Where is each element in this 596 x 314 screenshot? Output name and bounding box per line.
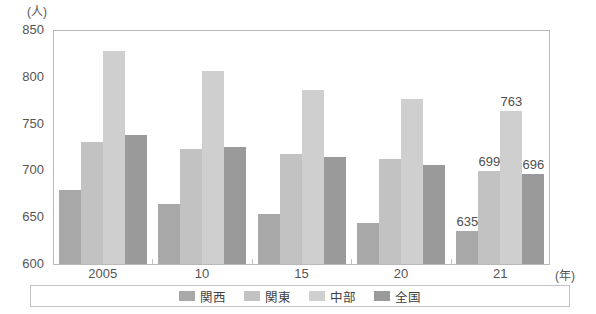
bar-group	[59, 30, 147, 264]
bar-value-label: 635	[447, 214, 487, 229]
x-axis: 200510152021(年)	[0, 266, 596, 284]
bar-value-label: 699	[469, 154, 509, 169]
y-axis-tick-label: 700	[0, 163, 44, 176]
chart-legend: 関西関東中部全国	[30, 285, 570, 307]
bar-関西-15[interactable]	[258, 214, 280, 264]
legend-swatch-icon	[179, 291, 195, 301]
bar-中部-10[interactable]	[202, 71, 224, 264]
bar-関東-2005[interactable]	[81, 142, 103, 264]
legend-swatch-icon	[244, 291, 260, 301]
bar-group	[357, 30, 445, 264]
bar-中部-2005[interactable]	[103, 51, 125, 264]
x-axis-tick-label: 2005	[73, 266, 133, 281]
bar-value-label: 763	[491, 94, 531, 109]
chart-container: (人) 600650700750800850 200510152021(年) 関…	[0, 0, 596, 314]
bar-全国-10[interactable]	[224, 147, 246, 264]
x-axis-tick-label: 20	[371, 266, 431, 281]
legend-label: 中部	[330, 287, 356, 306]
bar-関西-20[interactable]	[357, 223, 379, 264]
legend-item-関西[interactable]: 関西	[179, 287, 226, 306]
bar-関西-21[interactable]	[456, 231, 478, 264]
x-axis-tick-label: 10	[172, 266, 232, 281]
bar-全国-2005[interactable]	[125, 135, 147, 264]
y-axis-tick-label: 850	[0, 23, 44, 36]
legend-label: 関東	[265, 287, 291, 306]
bar-全国-15[interactable]	[324, 157, 346, 264]
bar-中部-15[interactable]	[302, 90, 324, 264]
bar-関東-20[interactable]	[379, 159, 401, 264]
x-axis-tick-label: 21	[470, 266, 530, 281]
legend-item-中部[interactable]: 中部	[309, 287, 356, 306]
x-axis-tick-mark	[152, 259, 153, 265]
x-axis-tick-mark	[451, 259, 452, 265]
legend-label: 全国	[395, 287, 421, 306]
legend-item-関東[interactable]: 関東	[244, 287, 291, 306]
bar-group	[158, 30, 246, 264]
y-axis-tick-label: 650	[0, 210, 44, 223]
bar-group	[258, 30, 346, 264]
bar-中部-20[interactable]	[401, 99, 423, 264]
legend-item-全国[interactable]: 全国	[374, 287, 421, 306]
y-axis-tick-label: 800	[0, 70, 44, 83]
bar-中部-21[interactable]	[500, 111, 522, 264]
x-axis-tick-label: 15	[272, 266, 332, 281]
y-axis-tick-label: 750	[0, 117, 44, 130]
bar-関西-2005[interactable]	[59, 190, 81, 264]
bar-value-label: 696	[513, 157, 553, 172]
bar-関東-10[interactable]	[180, 149, 202, 264]
legend-swatch-icon	[309, 291, 325, 301]
legend-swatch-icon	[374, 291, 390, 301]
bar-関東-15[interactable]	[280, 154, 302, 264]
x-axis-tick-mark	[252, 259, 253, 265]
bar-全国-20[interactable]	[423, 165, 445, 264]
bar-関西-10[interactable]	[158, 204, 180, 264]
x-axis-unit-label: (年)	[555, 266, 575, 283]
bar-全国-21[interactable]	[522, 174, 544, 264]
y-axis: 600650700750800850	[0, 0, 53, 265]
legend-label: 関西	[200, 287, 226, 306]
x-axis-tick-mark	[351, 259, 352, 265]
